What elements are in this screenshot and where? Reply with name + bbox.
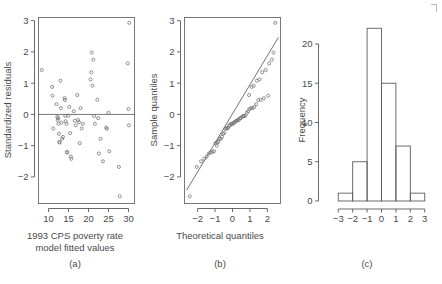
panel-b-x-axis-title: Theoretical quantiles [146, 230, 294, 242]
svg-text:−1: −1 [18, 140, 29, 151]
panel-a-caption: (a) [0, 258, 150, 269]
panel-a-data-points [40, 21, 131, 198]
panel-b-plot-frame [185, 18, 281, 204]
svg-text:0: 0 [230, 213, 235, 224]
panel-a-x-axis-title: 1993 CPS poverty rate model fitted value… [0, 230, 150, 254]
panel-a-x-axis-title-line1: 1993 CPS poverty rate [0, 230, 150, 242]
panel-b-x-axis: −2−1012 [192, 209, 270, 224]
svg-text:15: 15 [63, 213, 74, 224]
panel-a-plot-frame [39, 18, 135, 204]
panel-b-caption: (b) [146, 258, 294, 269]
svg-text:−3: −3 [333, 213, 344, 224]
svg-text:−1: −1 [210, 213, 221, 224]
svg-text:3: 3 [23, 15, 28, 26]
svg-text:−2: −2 [164, 171, 175, 182]
panel-b-reference-line [187, 37, 279, 190]
svg-text:1: 1 [247, 213, 252, 224]
panel-c-caption: (c) [292, 258, 442, 269]
panel-c-bars [338, 28, 424, 201]
panel-c-svg: 05101520 −3−2−10123 Frequency [292, 0, 442, 220]
svg-text:−2: −2 [18, 171, 29, 182]
svg-text:3: 3 [169, 15, 174, 26]
svg-text:2: 2 [23, 46, 28, 57]
svg-text:−1: −1 [362, 213, 373, 224]
svg-text:25: 25 [103, 213, 114, 224]
svg-text:−2: −2 [347, 213, 358, 224]
svg-text:30: 30 [123, 213, 134, 224]
panel-b-data-points [188, 21, 277, 198]
svg-text:−2: −2 [192, 213, 203, 224]
panel-c-x-axis: −3−2−10123 [333, 209, 428, 224]
svg-text:0: 0 [169, 109, 174, 120]
svg-text:0: 0 [23, 109, 28, 120]
figure-container: −2−10123 1015202530 Standardized residua… [0, 0, 442, 284]
svg-text:15: 15 [302, 78, 313, 89]
svg-text:2: 2 [265, 213, 270, 224]
panel-a-residual-scatter: −2−10123 1015202530 Standardized residua… [0, 0, 150, 284]
svg-text:3: 3 [422, 213, 427, 224]
panel-c-histogram: 05101520 −3−2−10123 Frequency (c) [292, 0, 442, 284]
svg-text:0: 0 [379, 213, 384, 224]
panel-b-y-axis-label: Sample quantiles [148, 73, 159, 146]
svg-text:1: 1 [169, 78, 174, 89]
panel-b-y-axis: −2−10123 [164, 15, 181, 182]
svg-text:10: 10 [43, 213, 54, 224]
panel-b-svg: −2−10123 −2−1012 Sample quantiles [146, 0, 294, 220]
svg-text:1: 1 [393, 213, 398, 224]
panel-a-x-axis: 1015202530 [43, 209, 134, 224]
panel-a-svg: −2−10123 1015202530 Standardized residua… [0, 0, 150, 220]
panel-b-qq-plot: −2−10123 −2−1012 Sample quantiles Theore… [146, 0, 294, 284]
panel-a-y-axis-label: Standardized residuals [2, 61, 13, 158]
svg-text:2: 2 [408, 213, 413, 224]
svg-text:2: 2 [169, 46, 174, 57]
panel-c-y-axis-label: Frequency [296, 97, 307, 142]
svg-text:−1: −1 [164, 140, 175, 151]
panel-a-y-axis: −2−10123 [18, 15, 35, 182]
svg-text:5: 5 [307, 156, 312, 167]
svg-text:1: 1 [23, 78, 28, 89]
svg-text:20: 20 [302, 38, 313, 49]
crop-mark-icon [431, 4, 437, 12]
svg-text:20: 20 [83, 213, 94, 224]
svg-text:0: 0 [307, 195, 312, 206]
panel-a-x-axis-title-line2: model fitted values [0, 242, 150, 254]
